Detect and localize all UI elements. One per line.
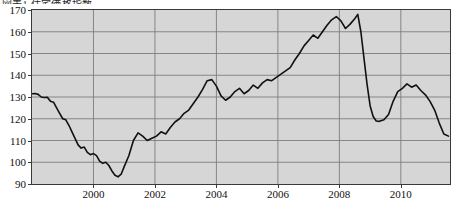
x-tick-label: 2004 [196,189,236,200]
y-tick-label: 150 [0,49,26,59]
x-tick-label: 2000 [73,189,113,200]
x-tick-label: 2006 [258,189,298,200]
chart-canvas [32,10,450,184]
y-tick-label: 170 [0,5,26,15]
x-tick-mark [216,185,217,188]
y-tick-label: 160 [0,27,26,37]
x-tick-mark [401,185,402,188]
y-tick-label: 130 [0,92,26,102]
x-tick-mark [155,185,156,188]
y-tick-label: 120 [0,114,26,124]
y-tick-label: 90 [0,179,26,189]
x-tick-label: 2002 [135,189,175,200]
gridlines [32,10,450,184]
x-tick-mark [278,185,279,188]
data-line-series-index [32,14,448,176]
x-tick-mark [339,185,340,188]
y-tick-label: 140 [0,70,26,80]
chart-figure: 図表1 住宅価格指数 17016015014013012011010090 20… [0,0,454,213]
x-tick-label: 2008 [319,189,359,200]
x-tick-label: 2010 [381,189,421,200]
x-tick-mark [93,185,94,188]
y-tick-label: 100 [0,157,26,167]
plot-area [31,9,451,185]
y-tick-label: 110 [0,136,26,146]
